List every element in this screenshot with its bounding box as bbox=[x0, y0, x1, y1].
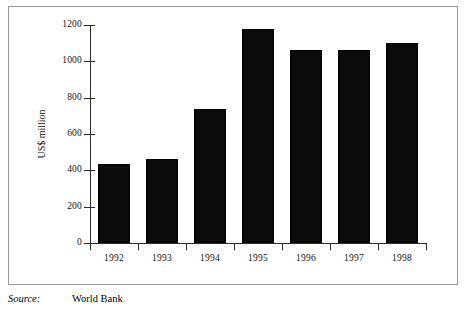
y-axis-tick-label: 1200 bbox=[40, 20, 82, 30]
x-axis-tick-label: 1992 bbox=[90, 253, 138, 263]
y-axis-tick-label: 400 bbox=[40, 165, 82, 175]
y-axis-tick-mark bbox=[84, 25, 95, 26]
bar bbox=[146, 159, 178, 243]
x-axis-line bbox=[90, 243, 426, 244]
y-axis-tick-label: 200 bbox=[40, 202, 82, 212]
y-axis-tick-label-text: 1200 bbox=[46, 20, 82, 30]
x-axis-tick-label: 1994 bbox=[186, 253, 234, 263]
y-axis-tick-label: 800 bbox=[40, 93, 82, 103]
bar bbox=[242, 29, 274, 243]
y-axis-tick-label-text: 600 bbox=[46, 129, 82, 139]
x-axis-tick-mark bbox=[90, 243, 91, 250]
x-axis-tick-mark bbox=[426, 243, 427, 250]
y-axis-tick-label-text: 1000 bbox=[46, 56, 82, 66]
bar bbox=[386, 43, 418, 243]
y-axis-tick-label-text: 400 bbox=[46, 165, 82, 175]
x-axis-tick-label: 1995 bbox=[234, 253, 282, 263]
bar bbox=[194, 109, 226, 243]
y-axis-tick-mark bbox=[84, 61, 95, 62]
x-axis-tick-mark bbox=[186, 243, 187, 250]
x-axis-tick-label: 1996 bbox=[282, 253, 330, 263]
y-axis-tick-mark bbox=[84, 98, 95, 99]
y-axis-tick-label-text: 0 bbox=[46, 238, 82, 248]
x-axis-tick-mark bbox=[138, 243, 139, 250]
source-line: Source:World Bank bbox=[8, 292, 448, 306]
y-axis-tick-mark bbox=[84, 207, 95, 208]
y-axis-tick-label: 1000 bbox=[40, 56, 82, 66]
y-axis-tick-label: 600 bbox=[40, 129, 82, 139]
source-value: World Bank bbox=[58, 292, 123, 306]
bar bbox=[338, 50, 370, 243]
y-axis-tick-mark bbox=[84, 170, 95, 171]
x-axis-tick-mark bbox=[330, 243, 331, 250]
x-axis-tick-mark bbox=[378, 243, 379, 250]
bar bbox=[98, 164, 130, 243]
source-label: Source: bbox=[8, 292, 58, 306]
x-axis-tick-mark bbox=[234, 243, 235, 250]
x-axis-tick-label: 1998 bbox=[378, 253, 426, 263]
y-axis-tick-mark bbox=[84, 134, 95, 135]
bar bbox=[290, 50, 322, 243]
x-axis-tick-label: 1997 bbox=[330, 253, 378, 263]
y-axis-tick-label: 0 bbox=[40, 238, 82, 248]
y-axis-tick-label-text: 800 bbox=[46, 93, 82, 103]
y-axis-tick-label-text: 200 bbox=[46, 202, 82, 212]
x-axis-tick-label: 1993 bbox=[138, 253, 186, 263]
x-axis-tick-mark bbox=[282, 243, 283, 250]
